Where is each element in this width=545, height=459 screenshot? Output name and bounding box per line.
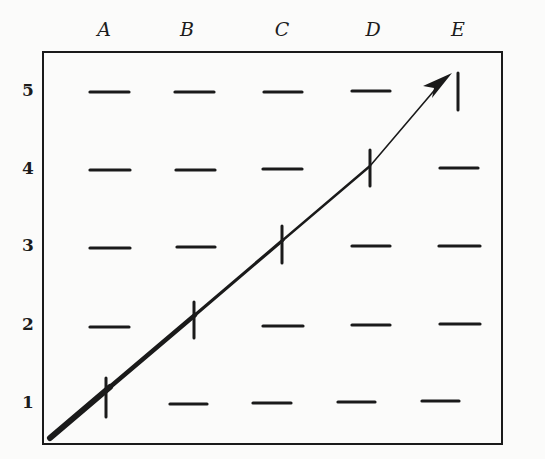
arrow-segment-4	[283, 166, 370, 240]
arrowhead-icon	[423, 73, 452, 98]
arrow-segment-3	[195, 240, 283, 315]
arrow-segment-1	[50, 387, 110, 438]
grid-diagram	[0, 0, 545, 459]
diagonal-arrow	[50, 79, 444, 438]
